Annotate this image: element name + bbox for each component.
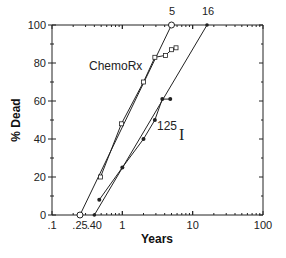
open-circle-marker <box>168 22 174 28</box>
x-axis-title: Years <box>141 232 173 246</box>
y-tick-label: 0 <box>40 209 46 221</box>
y-tick-label: 20 <box>34 171 46 183</box>
dot-marker <box>142 137 146 141</box>
x-tick-label: 100 <box>254 219 272 231</box>
y-tick-label: 40 <box>34 133 46 145</box>
y-tick-label: 60 <box>34 95 46 107</box>
y-tick-label: 100 <box>28 19 46 31</box>
x-tick-label: .1 <box>47 219 56 231</box>
x-tick-label: .25 <box>72 219 87 231</box>
y-axis-title: % Dead <box>9 98 23 141</box>
square-marker <box>174 46 178 50</box>
y-tick-label: 80 <box>34 57 46 69</box>
iodine-mass-label: 125 <box>157 119 177 133</box>
square-marker <box>119 122 123 126</box>
dot-marker <box>205 23 209 27</box>
top-annotation-5: 5 <box>169 5 175 17</box>
series-layer <box>77 22 209 218</box>
square-marker <box>99 175 103 179</box>
top-annotation-16: 16 <box>202 5 214 17</box>
x-tick-label: 10 <box>187 219 199 231</box>
data-line <box>99 99 170 200</box>
square-marker <box>169 48 173 52</box>
survival-chart: 020406080100 .1.25.40110100 % Dead Years… <box>0 0 286 258</box>
open-circle-marker <box>77 212 83 218</box>
square-marker <box>153 55 157 59</box>
x-tick-label: 1 <box>119 219 125 231</box>
chemo-series-label: ChemoRx <box>89 59 142 73</box>
square-marker <box>142 80 146 84</box>
dot-marker <box>168 97 172 101</box>
dot-marker <box>120 166 124 170</box>
dot-marker <box>93 213 97 217</box>
iodine-symbol-label: I <box>179 126 184 143</box>
y-axis: 020406080100 <box>28 19 263 221</box>
square-marker <box>163 53 167 57</box>
dot-marker <box>160 97 164 101</box>
dot-marker <box>97 198 101 202</box>
fit-line <box>94 25 207 215</box>
x-tick-label: .40 <box>87 219 102 231</box>
